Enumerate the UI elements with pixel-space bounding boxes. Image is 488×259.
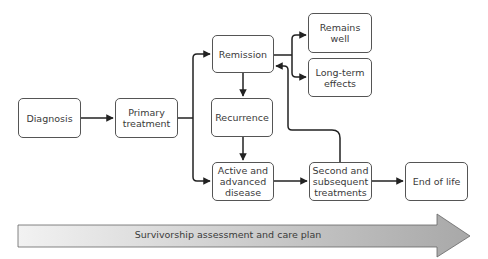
edge-primary-remission <box>193 54 210 118</box>
node-primary-treatment: Primary treatment <box>115 98 178 138</box>
node-remission: Remission <box>212 35 274 73</box>
edge-primary-active <box>193 118 210 181</box>
edge-remission-longterm <box>292 55 306 77</box>
banner-label: Survivorship assessment and care plan <box>18 229 438 240</box>
edge-remission-remains <box>292 35 306 55</box>
node-diagnosis: Diagnosis <box>18 98 81 138</box>
node-end-of-life: End of life <box>405 162 468 201</box>
node-recurrence: Recurrence <box>211 98 273 137</box>
node-second-subsequent-treatments: Second and subsequent treatments <box>309 162 372 201</box>
node-remains-well: Remains well <box>308 13 372 53</box>
node-active-advanced-disease: Active and advanced disease <box>212 162 274 201</box>
node-long-term-effects: Long-term effects <box>308 58 372 97</box>
